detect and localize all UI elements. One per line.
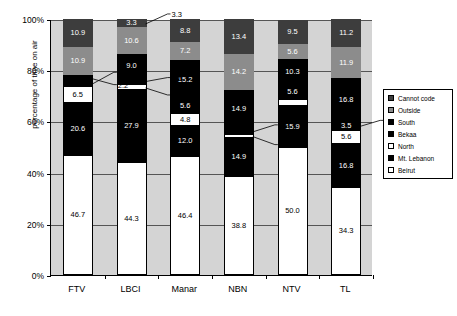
bar-segment[interactable]: 10.6 (117, 27, 147, 54)
bar-lbci[interactable]: 44.327.99.010.63.3 (117, 20, 147, 275)
y-axis-tick-label: 80% (10, 67, 44, 76)
x-axis-tick (266, 275, 267, 279)
y-axis-tick-label: 0% (10, 272, 44, 281)
bar-segment[interactable]: 50.0 (278, 147, 308, 275)
segment-value-label: 13.4 (232, 33, 247, 41)
bar-segment[interactable]: 34.3 (331, 187, 361, 275)
legend-swatch-icon (388, 95, 394, 101)
x-axis-tick-label: FTV (47, 284, 107, 294)
bar-segment[interactable]: 11.2 (331, 19, 361, 48)
y-axis-tick-label: 60% (10, 118, 44, 127)
bar-segment[interactable]: 14.9 (224, 138, 254, 176)
segment-value-label: 5.6 (180, 102, 190, 110)
segment-value-label: 6.5 (73, 91, 83, 99)
y-axis-tick (47, 276, 51, 277)
bar-segment[interactable]: 10.9 (63, 47, 93, 75)
x-axis-tick (158, 275, 159, 279)
bar-nbn[interactable]: 38.814.914.914.213.4 (224, 20, 254, 275)
segment-value-label: 20.6 (71, 125, 86, 133)
bar-segment[interactable]: 11.9 (331, 47, 361, 77)
x-axis-tick-label: LBCI (101, 284, 161, 294)
stacked-bar-chart: percentage of time on air 100%80%60%40%2… (0, 0, 457, 316)
bar-segment[interactable]: 7.2 (170, 42, 200, 60)
segment-value-label: 4.8 (180, 116, 190, 124)
bar-tl[interactable]: 34.316.85.63.516.811.911.2 (331, 20, 361, 275)
callout-label: 1.5 (279, 141, 289, 150)
segment-value-label: 5.6 (287, 88, 297, 96)
segment-value-label: 3.3 (126, 19, 136, 27)
bar-segment[interactable]: 46.7 (63, 155, 93, 275)
segment-value-label: 5.6 (341, 133, 351, 141)
legend-swatch-icon (388, 143, 394, 149)
legend-item-label: Mt. Lebanon (398, 155, 434, 162)
bar-segment[interactable]: 44.3 (117, 162, 147, 275)
bar-segment[interactable] (224, 128, 254, 134)
legend-item-north[interactable]: North (388, 142, 449, 150)
legend-item-label: Cannot code (398, 95, 435, 102)
bar-manar[interactable]: 46.412.04.85.615.27.28.8 (170, 20, 200, 275)
legend-item-label: Bekaa (398, 131, 416, 138)
bar-segment[interactable]: 16.8 (331, 78, 361, 121)
legend-item-label: South (398, 119, 415, 126)
segment-value-label: 10.9 (71, 29, 86, 37)
plot-area: 46.720.66.510.910.944.327.99.010.63.346.… (50, 20, 372, 276)
y-axis-tick-labels: 100%80%60%40%20%0% (0, 0, 44, 316)
segment-value-label: 7.2 (180, 47, 190, 55)
bar-segment[interactable]: 16.8 (331, 144, 361, 187)
segment-value-label: 50.0 (285, 207, 300, 215)
legend-item-bekaa[interactable]: Bekaa (388, 130, 449, 138)
legend-swatch-icon (388, 107, 394, 113)
x-axis-tick-label: Manar (154, 284, 214, 294)
bar-ftv[interactable]: 46.720.66.510.910.9 (63, 20, 93, 275)
bar-segment[interactable] (224, 134, 254, 138)
legend-swatch-icon (388, 119, 394, 125)
bar-segment[interactable]: 13.4 (224, 19, 254, 53)
bar-segment[interactable] (63, 75, 93, 81)
bar-segment[interactable]: 20.6 (63, 103, 93, 156)
bar-segment[interactable]: 38.8 (224, 176, 254, 275)
callout-label: 2.5 (172, 91, 182, 100)
legend-item-beirut[interactable]: Beirut (388, 166, 449, 174)
bar-segment[interactable]: 6.5 (63, 86, 93, 103)
bar-segment[interactable]: 10.3 (278, 59, 308, 85)
bar-segment[interactable]: 12.0 (170, 126, 200, 157)
segment-value-label: 14.9 (232, 153, 247, 161)
segment-value-label: 10.3 (285, 68, 300, 76)
legend-swatch-icon (388, 167, 394, 173)
bar-segment[interactable] (63, 80, 93, 86)
callout-label: 3.3 (172, 10, 182, 19)
bar-segment[interactable]: 5.6 (331, 130, 361, 144)
legend-item-outside[interactable]: Outside (388, 106, 449, 114)
bar-segment[interactable]: 14.9 (224, 90, 254, 128)
bar-segment[interactable]: 5.6 (278, 85, 308, 99)
x-axis-tick (212, 275, 213, 279)
bar-segment[interactable]: 3.3 (117, 19, 147, 27)
bar-segment[interactable]: 8.8 (170, 19, 200, 42)
bar-segment[interactable]: 5.6 (278, 44, 308, 58)
x-axis-tick-label: TL (315, 284, 375, 294)
bar-segment[interactable]: 4.8 (170, 113, 200, 125)
bar-segment[interactable]: 3.5 (331, 121, 361, 130)
bar-segment[interactable]: 5.6 (170, 99, 200, 113)
segment-value-label: 10.9 (71, 57, 86, 65)
legend-swatch-icon (388, 131, 394, 137)
segment-value-label: 8.8 (180, 27, 190, 35)
y-axis-tick-label: 40% (10, 170, 44, 179)
bar-segment[interactable]: 46.4 (170, 156, 200, 275)
bar-segment[interactable]: 27.9 (117, 90, 147, 161)
callout-label: 2.2 (118, 68, 128, 77)
bar-segment[interactable]: 9.5 (278, 20, 308, 44)
segment-value-label: 27.9 (124, 122, 139, 130)
segment-value-label: 14.2 (232, 68, 247, 76)
legend-item-south[interactable]: South (388, 118, 449, 126)
segment-value-label: 10.6 (124, 37, 139, 45)
bar-segment[interactable] (278, 99, 308, 106)
legend-item-cannot-code[interactable]: Cannot code (388, 94, 449, 102)
bar-segment[interactable]: 14.2 (224, 54, 254, 90)
bar-segment[interactable]: 10.9 (63, 19, 93, 47)
segment-value-label: 44.3 (124, 215, 139, 223)
segment-value-label: 11.9 (339, 59, 353, 67)
y-axis-tick-label: 20% (10, 221, 44, 230)
legend-item-mt-lebanon[interactable]: Mt. Lebanon (388, 154, 449, 162)
segment-value-label: 16.8 (339, 162, 354, 170)
